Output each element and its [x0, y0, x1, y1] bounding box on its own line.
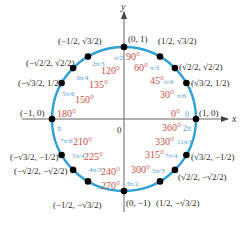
point-210 — [58, 152, 65, 159]
degree-label-330: 330° — [155, 136, 174, 147]
degree-label-300: 300° — [131, 164, 150, 175]
degree-label-180: 180° — [57, 108, 76, 119]
degree-label-210: 210° — [73, 136, 92, 147]
degree-label-240: 240° — [101, 166, 120, 177]
point-30 — [183, 80, 190, 87]
coord-label-150: (−√3/2, 1/2) — [18, 78, 62, 88]
coord-label-135: (−√2/2, √2/2) — [26, 58, 74, 68]
point-270 — [121, 188, 128, 195]
degree-label-270: 270° — [101, 180, 120, 191]
point-45 — [172, 65, 179, 72]
radian-label-135: 3π/4 — [76, 74, 89, 82]
origin-label: 0 — [117, 125, 122, 135]
radian-label-360: 2π — [183, 124, 191, 133]
coord-label-330: (√3/2, −1/2) — [191, 152, 235, 162]
radian-label-150: 5π/6 — [62, 90, 75, 98]
point-60 — [157, 53, 164, 60]
coord-label-180: (−1, 0) — [20, 108, 45, 118]
radian-label-315: 7π/4 — [165, 152, 178, 160]
y-axis-label: y — [120, 1, 126, 12]
coord-label-120: (−1/2, √3/2) — [58, 36, 102, 46]
radian-label-45: π/4 — [164, 78, 173, 86]
coord-label-225: (−√2/2, −√2/2) — [14, 166, 68, 176]
radian-label-270: 3π/2 — [126, 180, 139, 188]
point-330 — [183, 152, 190, 159]
coord-label-30: (√3/2, 1/2) — [191, 78, 229, 88]
radian-label-30: π/6 — [177, 92, 186, 100]
radian-label-90: π/2 — [114, 54, 123, 62]
radian-label-0: 0 — [185, 110, 189, 119]
radian-label-60: π/3 — [150, 64, 159, 72]
coord-label-60: (1/2, √3/2) — [158, 36, 196, 46]
point-240 — [85, 178, 92, 185]
degree-label-90: 90° — [126, 51, 140, 62]
point-120 — [85, 53, 92, 60]
coord-label-270: (0, −1) — [126, 198, 151, 208]
radian-label-300: 5π/3 — [152, 167, 165, 175]
point-300 — [157, 178, 164, 185]
degree-label-135: 135° — [89, 79, 108, 90]
radian-label-240: 4π/3 — [89, 166, 102, 174]
x-axis-label: x — [231, 113, 237, 124]
degree-label-0: 0° — [171, 108, 180, 119]
coord-label-240: (−1/2, −√3/2) — [53, 200, 102, 210]
radian-label-180: π — [57, 124, 61, 133]
point-90 — [121, 44, 128, 51]
degree-label-360: 360° — [162, 122, 181, 133]
radian-label-225: 5π/4 — [72, 152, 85, 160]
coord-label-90: (0, 1) — [128, 34, 148, 44]
degree-label-315: 315° — [145, 149, 164, 160]
degree-label-30: 30° — [160, 89, 174, 100]
radian-label-210: 7π/6 — [60, 137, 73, 145]
point-225 — [70, 167, 77, 174]
coord-label-210: (−√3/2, −1/2) — [10, 152, 59, 162]
unit-circle-diagram: x y 0 0° 30° 45° 60° 90° 120° 135° 150° … — [0, 0, 248, 229]
degree-label-225: 225° — [84, 151, 103, 162]
radian-label-330: 11π/6 — [177, 138, 193, 146]
radian-label-120: 2π/3 — [92, 60, 105, 68]
degree-label-60: 60° — [134, 62, 148, 73]
coord-label-0: (1, 0) — [199, 108, 219, 118]
coord-label-300: (1/2, −√3/2) — [156, 198, 200, 208]
degree-label-150: 150° — [75, 94, 94, 105]
coord-label-45: (√2/2, √2/2) — [179, 62, 222, 72]
point-180 — [49, 116, 56, 123]
degree-label-45: 45° — [150, 75, 164, 86]
coord-label-315: (√2/2, −√2/2) — [178, 172, 226, 182]
